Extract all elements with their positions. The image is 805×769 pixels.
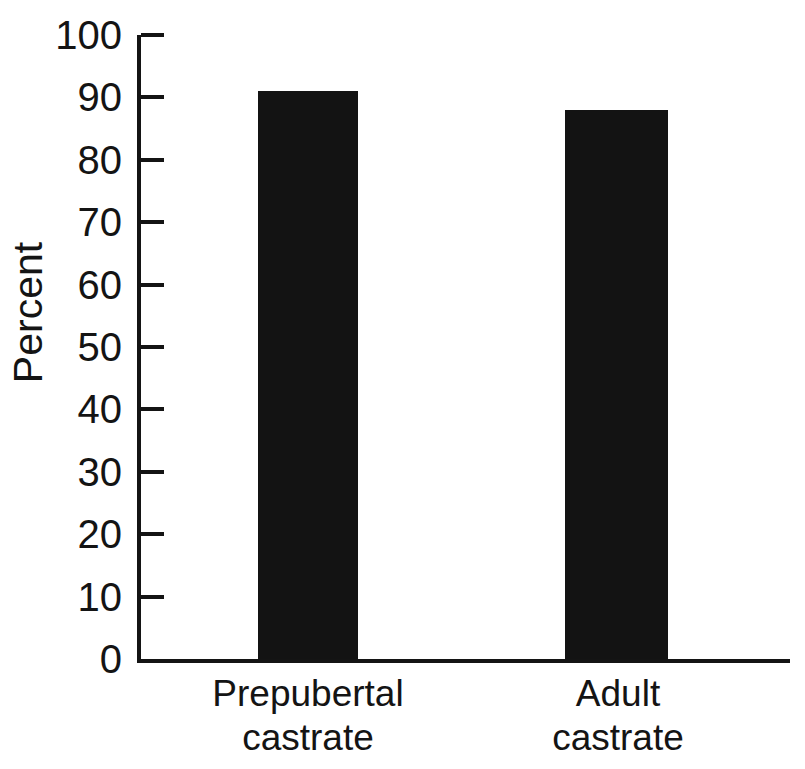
x-axis-category-label-line: castrate: [198, 716, 418, 760]
x-axis-category-label-line: Adult: [508, 672, 728, 716]
x-axis-category-label: Prepubertalcastrate: [198, 672, 418, 759]
x-axis-category-label-line: castrate: [508, 716, 728, 760]
x-axis-category-labels: PrepubertalcastrateAdultcastrate: [0, 0, 805, 769]
bar-chart-figure: Percent 1009080706050403020100 Prepubert…: [0, 0, 805, 769]
x-axis-category-label: Adultcastrate: [508, 672, 728, 759]
x-axis-category-label-line: Prepubertal: [198, 672, 418, 716]
